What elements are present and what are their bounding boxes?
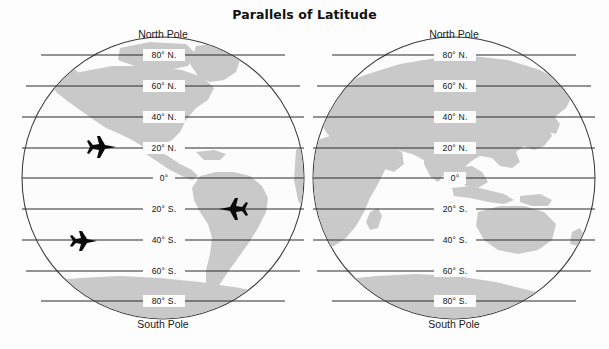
latitude-diagram: Parallels of Latitude	[0, 0, 609, 349]
parallel-label-20s: 20° S.	[152, 204, 177, 214]
parallel-label-60s: 60° S.	[152, 266, 177, 276]
parallel-label-60n: 60° N.	[151, 81, 176, 91]
parallel-label-40s: 40° S.	[152, 235, 177, 245]
parallel-label-20s-e: 20° S.	[443, 204, 468, 214]
north-pole-label-eastern: North Pole	[429, 28, 479, 40]
hemisphere-eastern: 80° N. 60° N. 40° N. 20° N. 0° 20° S. 40…	[300, 28, 600, 332]
parallel-label-equator-e: 0°	[451, 173, 460, 183]
parallel-label-80n: 80° N.	[151, 50, 176, 60]
parallel-label-60s-e: 60° S.	[443, 266, 468, 276]
parallel-label-80n-e: 80° N.	[442, 50, 467, 60]
parallel-label-equator: 0°	[160, 173, 169, 183]
parallel-label-20n-e: 20° N.	[442, 143, 467, 153]
parallel-label-80s-e: 80° S.	[443, 296, 468, 306]
hemisphere-western: 80° N. 60° N. 40° N. 20° N. 0° 20° S. 40…	[6, 28, 320, 330]
parallel-label-60n-e: 60° N.	[442, 81, 467, 91]
south-pole-label-eastern: South Pole	[428, 318, 480, 330]
north-pole-label-western: North Pole	[138, 28, 188, 40]
parallel-label-40n-e: 40° N.	[442, 112, 467, 122]
parallel-label-40n: 40° N.	[151, 112, 176, 122]
south-pole-label-western: South Pole	[137, 318, 189, 330]
parallel-label-80s: 80° S.	[152, 296, 177, 306]
parallel-label-20n: 20° N.	[151, 143, 176, 153]
world-hemispheres-map: 80° N. 60° N. 40° N. 20° N. 0° 20° S. 40…	[0, 0, 609, 349]
parallel-label-40s-e: 40° S.	[443, 235, 468, 245]
